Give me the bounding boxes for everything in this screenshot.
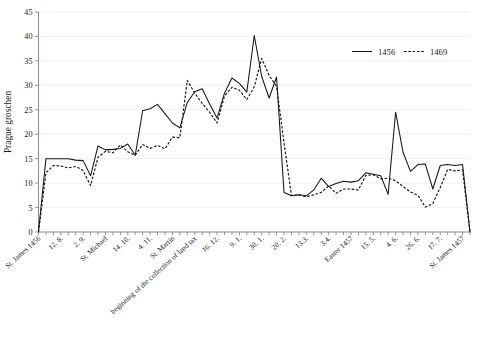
x-tick-label: 12. 8. (46, 234, 64, 252)
x-tick-label: 16. 12. (200, 234, 221, 254)
x-tick-label: 13.3. (293, 234, 310, 251)
y-tick-label: 0 (28, 228, 32, 237)
x-tick-label: 26. 6. (403, 234, 421, 252)
y-tick-label: 15 (24, 155, 32, 164)
y-tick-label: 35 (24, 57, 32, 66)
x-tick-label: 20. 2. (269, 234, 287, 252)
y-axis-title: Prague groschen (3, 91, 13, 154)
x-tick-label: 4. 11. (136, 234, 154, 252)
x-tick-label: 30. 1. (247, 234, 265, 252)
grid-lines (39, 12, 471, 208)
legend-label-1469: 1469 (430, 47, 447, 57)
y-tick-label: 20 (24, 130, 32, 139)
x-tick-label: 2. 9. (71, 234, 87, 249)
series-line-1469 (39, 58, 471, 232)
y-tick-label: 30 (24, 81, 32, 90)
y-axis-ticks: 051015202530354045 (24, 8, 38, 237)
y-tick-label: 45 (24, 8, 32, 17)
legend-label-1456: 1456 (378, 47, 396, 57)
chart-container: 051015202530354045 St. James 145612. 8.2… (0, 0, 482, 341)
x-tick-label: 15. 5. (359, 234, 377, 252)
line-chart: 051015202530354045 St. James 145612. 8.2… (0, 0, 482, 341)
y-tick-label: 25 (24, 106, 32, 115)
x-tick-label: St. James 1456 (3, 234, 42, 271)
x-tick-label: 3.4. (318, 234, 332, 248)
x-tick-label: 9. 1. (228, 234, 244, 249)
x-tick-label: 14. 10. (110, 234, 131, 254)
y-tick-label: 10 (24, 179, 32, 188)
x-axis-labels: St. James 145612. 8.2. 9.St. Michael14. … (3, 234, 466, 316)
x-tick-label: 4. 6. (384, 234, 400, 249)
y-tick-label: 40 (24, 32, 32, 41)
series-line-1456 (39, 35, 471, 232)
x-tick-label: 17. 7. (426, 234, 444, 252)
y-tick-label: 5 (28, 204, 32, 213)
chart-legend: 1456 1469 (352, 47, 447, 57)
data-series (39, 35, 471, 232)
